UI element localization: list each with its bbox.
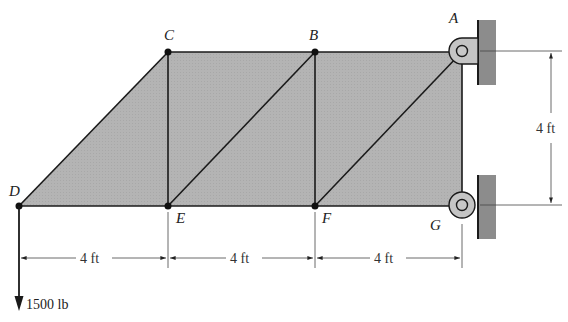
dimension-fg-label: 4 ft [374,251,393,266]
horizontal-dimensions: 4 ft 4 ft 4 ft [21,212,462,268]
wall-support-a [478,20,496,85]
vertical-dimension-label: 4 ft [536,121,555,136]
node-label-b: B [309,27,318,43]
wall-support-g [478,175,496,239]
node-label-c: C [164,27,175,43]
node-label-a: A [448,10,459,26]
truss-diagram: C B A D E F G 4 ft 4 ft 4 ft 4 ft 1500 l… [0,0,568,322]
load-arrow: 1500 lb [15,206,69,312]
node-label-e: E [175,210,185,226]
joint-c [165,49,172,56]
dimension-de-label: 4 ft [80,251,99,266]
node-label-d: D [8,183,20,199]
joint-e [165,203,172,210]
dimension-ef-label: 4 ft [230,251,249,266]
load-label: 1500 lb [26,297,68,312]
joint-f [312,203,319,210]
pin-support-a [449,38,478,64]
pin-support-g [449,192,475,218]
joint-b [312,49,319,56]
node-label-f: F [321,210,332,226]
node-label-g: G [430,217,441,233]
